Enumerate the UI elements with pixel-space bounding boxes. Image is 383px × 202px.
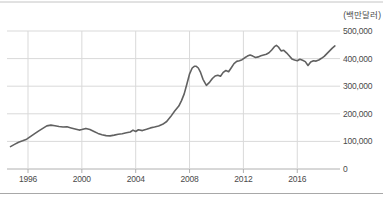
unit-label: (백만달러) xyxy=(343,10,381,20)
y-tick-label: 0 xyxy=(343,164,348,174)
x-tick-label: 2016 xyxy=(288,174,307,184)
x-tick-label: 2012 xyxy=(234,174,253,184)
gridlines xyxy=(7,31,340,173)
x-tick-label: 1996 xyxy=(19,174,38,184)
chart-figure: (백만달러) 0100,000200,000300,000400,000500,… xyxy=(0,0,383,202)
tick-labels: 0100,000200,000300,000400,000500,0001996… xyxy=(19,26,373,184)
series-line xyxy=(11,45,335,146)
y-tick-label: 100,000 xyxy=(343,136,373,146)
y-tick-label: 200,000 xyxy=(343,109,373,119)
y-tick-label: 500,000 xyxy=(343,26,373,36)
y-tick-label: 300,000 xyxy=(343,81,373,91)
line-chart: (백만달러) 0100,000200,000300,000400,000500,… xyxy=(0,0,383,202)
y-tick-label: 400,000 xyxy=(343,54,373,64)
x-tick-label: 2000 xyxy=(73,174,92,184)
x-tick-label: 2008 xyxy=(180,174,199,184)
x-tick-label: 2004 xyxy=(127,174,146,184)
